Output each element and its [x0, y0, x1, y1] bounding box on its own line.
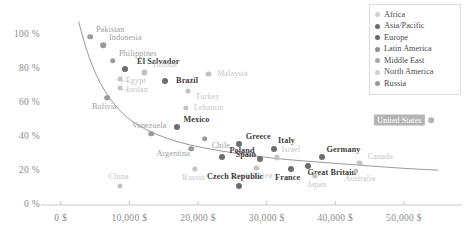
data-point-label: Turkey [196, 93, 220, 101]
data-point-label: Italy [278, 137, 295, 145]
data-point-label: Tunisia [152, 61, 177, 69]
data-point[interactable] [288, 166, 294, 172]
data-point-label: Germany [327, 146, 361, 154]
data-point-label: Czech Republic [207, 173, 263, 181]
data-point[interactable] [319, 154, 325, 160]
legend-dot-icon [375, 81, 380, 86]
data-point-label: Chile [212, 142, 230, 150]
legend-label: Asia/Pacific [384, 22, 425, 30]
y-axis-tick-label: 20 % [0, 165, 40, 175]
y-axis-tick-label: 40 % [0, 131, 40, 141]
legend-label: Europe [384, 34, 408, 42]
legend-label: Middle East [384, 57, 424, 65]
data-point[interactable] [87, 34, 93, 40]
x-axis-tick-marks [61, 201, 404, 205]
legend-item[interactable]: Europe [375, 32, 455, 44]
data-point[interactable] [122, 66, 128, 72]
data-point-label: France [275, 174, 300, 182]
data-point-label: Israel [282, 146, 301, 154]
data-point[interactable] [236, 183, 242, 189]
data-point-label: Lebanon [194, 104, 223, 112]
legend-dot-icon [375, 12, 380, 17]
data-point-label: Brazil [176, 77, 198, 85]
data-point-label: Jordan [126, 86, 148, 94]
data-point-label: Spain [236, 151, 257, 159]
legend-label: Russia [384, 80, 406, 88]
data-point-label: Indonesia [109, 34, 142, 42]
legend-item[interactable]: Middle East [375, 55, 455, 67]
data-point-label: Argentina [156, 150, 190, 158]
data-point[interactable] [257, 156, 263, 162]
data-point-label: China [109, 173, 129, 181]
data-point[interactable] [271, 146, 277, 152]
data-point-label: Russia [182, 174, 204, 182]
data-point[interactable] [174, 124, 180, 130]
legend-label: North America [384, 68, 434, 76]
x-axis-tick-label: 0 $ [54, 213, 67, 223]
data-point[interactable] [105, 95, 111, 101]
y-axis-tick-label: 60 % [0, 97, 40, 107]
scatter-chart: 0 %20 %40 %60 %80 %100 % 0 $10,000 $20,0… [0, 0, 465, 239]
data-point-label: Canada [368, 152, 393, 160]
x-axis-tick-label: 30,000 $ [249, 213, 285, 223]
data-point[interactable] [149, 131, 155, 137]
data-point-label: United States [374, 115, 424, 126]
data-point-label: Malaysia [217, 70, 248, 78]
legend-item[interactable]: Latin America [375, 44, 455, 56]
data-point-label: Australia [344, 175, 375, 183]
x-axis-tick-label: 50,000 $ [386, 213, 422, 223]
data-point[interactable] [202, 136, 208, 142]
legend-item[interactable]: Russia [375, 78, 455, 90]
y-axis-tick-label: 80 % [0, 63, 40, 73]
legend-dot-icon [375, 70, 380, 75]
data-point[interactable] [219, 154, 225, 160]
y-axis-tick-label: 100 % [0, 29, 40, 39]
data-point[interactable] [429, 117, 435, 123]
data-point[interactable] [110, 58, 116, 64]
x-axis-tick-label: 10,000 $ [112, 213, 148, 223]
x-axis-tick-label: 20,000 $ [180, 213, 216, 223]
legend-dot-icon [375, 58, 380, 63]
data-point-label: Mexico [183, 116, 209, 124]
data-point-label: Bolivia [92, 103, 117, 111]
x-axis-tick-label: 40,000 $ [317, 213, 353, 223]
legend-item[interactable]: Africa [375, 9, 455, 21]
legend-label: Africa [384, 11, 405, 19]
legend-dot-icon [375, 47, 380, 52]
legend-dot-icon [375, 24, 380, 29]
legend-item[interactable]: Asia/Pacific [375, 21, 455, 33]
data-point[interactable] [162, 78, 168, 84]
data-point-label: Greece [246, 133, 271, 141]
data-point[interactable] [100, 42, 106, 48]
data-point-label: Japan [307, 181, 326, 189]
y-axis-tick-label: 0 % [0, 199, 40, 209]
legend-item[interactable]: North America [375, 67, 455, 79]
legend-dot-icon [375, 35, 380, 40]
data-point-label: Venezuela [132, 121, 167, 129]
legend: AfricaAsia/PacificEuropeLatin AmericaMid… [369, 4, 461, 95]
legend-label: Latin America [384, 45, 432, 53]
